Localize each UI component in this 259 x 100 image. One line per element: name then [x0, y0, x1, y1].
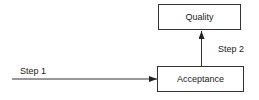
step1-label: Step 1 — [20, 66, 46, 76]
step2-label: Step 2 — [218, 44, 244, 54]
acceptance-node: Acceptance — [157, 66, 244, 92]
acceptance-label: Acceptance — [177, 74, 224, 84]
quality-node: Quality — [158, 4, 241, 30]
quality-label: Quality — [185, 12, 213, 22]
